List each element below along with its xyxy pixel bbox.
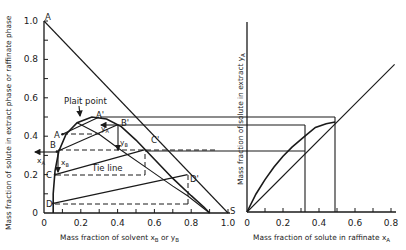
point-C <box>54 173 56 175</box>
tie-line-label: Tie line <box>91 163 123 173</box>
left-x-tick-label: 1.0 <box>221 218 236 228</box>
B-label: B <box>50 140 56 150</box>
left-y-tick-label: 0.6 <box>24 93 39 103</box>
right-plot: 00.20.40.60.8 Mass fraction of solute in… <box>236 22 398 243</box>
left-x-tick-label: 0 <box>41 218 47 228</box>
left-y-tick-label: 0.8 <box>24 54 39 64</box>
right-x-axis-label: Mass fraction of solute in raffinate xA <box>253 233 390 243</box>
apex-A-label: A <box>45 12 51 22</box>
S-label: S <box>230 206 235 216</box>
xB-label: xB <box>61 158 69 168</box>
C-prime-label: C' <box>151 135 159 145</box>
figure: 00.20.40.60.81.000.20.40.60.81.0 Mass fr… <box>0 0 406 250</box>
left-x-tick-label: 0.4 <box>110 218 125 228</box>
C-label: C <box>46 170 52 180</box>
D-prime-label: D' <box>190 174 199 184</box>
B-prime-label: B' <box>121 118 129 128</box>
A-label: A <box>54 130 60 140</box>
left-x-tick-label: 0.6 <box>147 218 162 228</box>
right-y-axis-label: Mass fraction of solute in extract yA <box>236 53 246 185</box>
A-prime-label: A' <box>96 110 104 120</box>
plait-point-arrow <box>79 106 80 116</box>
right-x-tick-label: 0 <box>244 218 250 228</box>
D-label: D <box>46 199 53 209</box>
left-x-axis-label: Mass fraction of solvent xB or yB <box>60 233 179 243</box>
left-y-tick-label: 1.0 <box>24 16 39 26</box>
right-x-tick-label: 0.4 <box>312 218 327 228</box>
45-degree-line <box>247 64 395 212</box>
left-y-axis-label: Mass fraction of solute in extract phase… <box>4 15 13 230</box>
left-y-tick-label: 0 <box>32 208 38 218</box>
right-x-tick-label: 0.6 <box>348 218 363 228</box>
tie-line-d-d- <box>53 175 187 204</box>
left-x-tick-label: 0.8 <box>184 218 199 228</box>
left-y-tick-label: 0.4 <box>24 131 39 141</box>
yB-label: yB <box>120 138 128 148</box>
right-x-tick-label: 0.8 <box>384 218 399 228</box>
left-plot: 00.20.40.60.81.000.20.40.60.81.0 Mass fr… <box>4 12 235 243</box>
left-y-tick-label: 0.2 <box>24 170 38 180</box>
left-x-tick-label: 0.2 <box>74 218 88 228</box>
right-x-tick-label: 0.2 <box>276 218 290 228</box>
plait-point-label: Plait point <box>64 96 107 106</box>
